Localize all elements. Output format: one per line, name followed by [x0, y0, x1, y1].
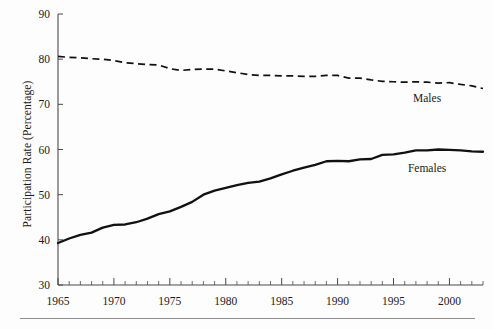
x-tick-label: 1980 — [214, 295, 237, 307]
series-label-males: Males — [413, 92, 442, 104]
x-tick-label: 1985 — [270, 295, 293, 307]
y-tick-label: 70 — [39, 98, 51, 110]
y-tick-label: 60 — [39, 144, 51, 156]
y-tick-label: 30 — [39, 279, 51, 291]
footer-divider — [20, 318, 475, 319]
y-axis-title: Participation Rate (Percentage) — [21, 39, 33, 269]
y-tick-label: 80 — [39, 53, 51, 65]
x-tick-label: 1970 — [102, 295, 125, 307]
y-tick-label: 40 — [39, 234, 51, 246]
series-line-males — [58, 56, 483, 88]
chart-figure: Participation Rate (Percentage) 30405060… — [0, 0, 493, 329]
series-label-females: Females — [408, 162, 447, 174]
x-tick-label: 1965 — [47, 295, 70, 307]
line-chart-plot: 3040506070809019651970197519801985199019… — [0, 0, 493, 329]
x-tick-label: 1975 — [158, 295, 181, 307]
x-tick-label: 1990 — [326, 295, 349, 307]
y-tick-label: 90 — [39, 8, 51, 20]
x-tick-label: 1995 — [382, 295, 405, 307]
x-tick-label: 2000 — [438, 295, 461, 307]
y-tick-label: 50 — [39, 189, 51, 201]
